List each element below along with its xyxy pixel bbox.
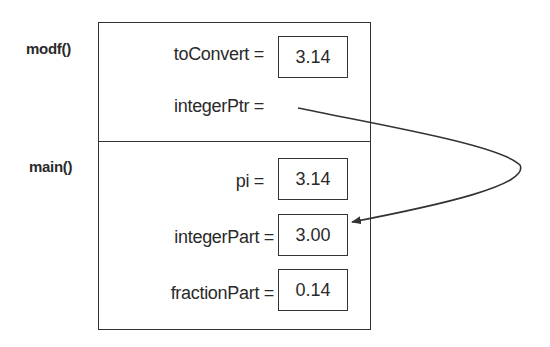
pointer-arrow-icon [0,0,550,347]
